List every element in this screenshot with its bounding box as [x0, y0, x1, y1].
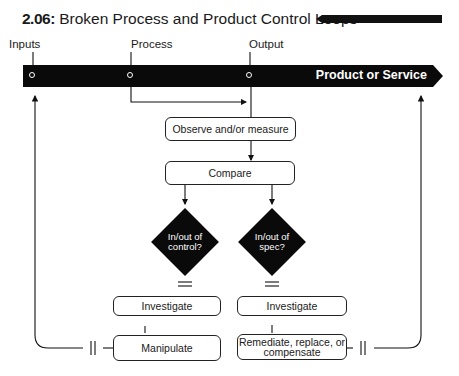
observe-measure-box: Observe and/or measure — [165, 117, 296, 141]
remediate-box: Remediate, replace, orcompensate — [237, 334, 347, 360]
product-or-service-label: Product or Service — [316, 68, 427, 82]
process-node — [127, 72, 133, 78]
compare-box: Compare — [165, 161, 295, 185]
value-stream-band: Product or Service — [23, 65, 433, 87]
inputs-node — [29, 72, 35, 78]
connector-lines — [0, 0, 459, 376]
process-to-observe — [131, 87, 246, 102]
decision-control-text: In/out ofcontrol? — [155, 232, 215, 252]
output-node — [246, 72, 252, 78]
manipulate-to-inputs-loop — [35, 96, 83, 348]
manipulate-box: Manipulate — [113, 335, 221, 361]
investigate-left-box: Investigate — [113, 296, 221, 316]
decision-spec-text: In/out ofspec? — [242, 232, 302, 252]
investigate-right-box: Investigate — [237, 296, 347, 316]
remediate-to-product-loop — [374, 96, 421, 348]
